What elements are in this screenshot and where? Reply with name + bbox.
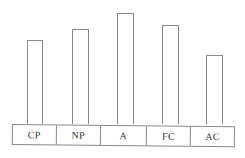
category-label-fc: FC — [147, 126, 192, 145]
bar-cp — [27, 40, 43, 124]
bar-np — [72, 29, 89, 124]
bar-ac — [206, 55, 223, 124]
egogram-bar-chart: CP NP A FC AC — [0, 0, 245, 158]
category-label-np: NP — [56, 125, 101, 144]
bar-a — [117, 13, 134, 124]
category-label-cp: CP — [13, 125, 57, 144]
bar-fc — [162, 25, 179, 124]
category-label-ac: AC — [191, 127, 234, 146]
category-label-a: A — [101, 126, 147, 145]
category-label-strip: CP NP A FC AC — [12, 124, 235, 147]
